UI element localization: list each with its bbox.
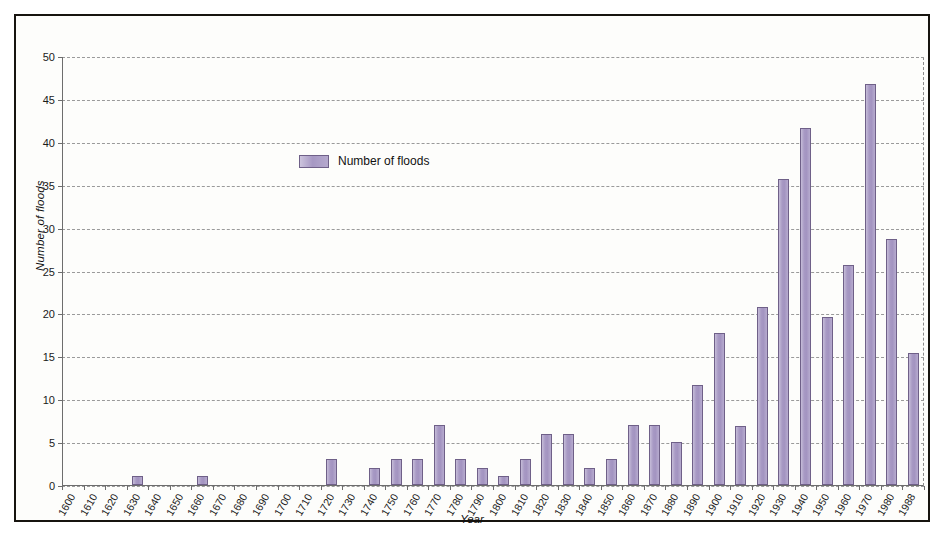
y-tick-mark (58, 143, 63, 144)
bar (649, 425, 660, 485)
x-tick-mark (385, 486, 386, 490)
x-tick-mark (881, 486, 882, 490)
bar (692, 385, 703, 485)
gridline (62, 229, 924, 230)
x-tick-mark (84, 486, 85, 490)
x-tick-mark (924, 486, 925, 490)
x-tick-mark (127, 486, 128, 490)
x-tick-mark (902, 486, 903, 490)
figure-page: Number of floods Year Number of floods 0… (0, 0, 944, 540)
bar (822, 317, 833, 485)
bar (412, 459, 423, 485)
gridline (62, 443, 924, 444)
y-tick-label: 30 (43, 223, 55, 234)
bar (498, 476, 509, 485)
y-tick-label: 5 (49, 438, 55, 449)
bar (434, 425, 445, 485)
y-tick-mark (58, 357, 63, 358)
x-tick-mark (601, 486, 602, 490)
bar (886, 239, 897, 485)
x-tick-mark (838, 486, 839, 490)
bar (541, 434, 552, 485)
gridline (62, 100, 924, 101)
figure-frame: Number of floods Year Number of floods 0… (14, 14, 930, 522)
bar (477, 468, 488, 485)
x-tick-mark (105, 486, 106, 490)
x-tick-mark (170, 486, 171, 490)
y-tick-label: 15 (43, 352, 55, 363)
x-tick-mark (428, 486, 429, 490)
bar (197, 476, 208, 485)
gridline (62, 143, 924, 144)
bar (757, 307, 768, 485)
x-tick-mark (579, 486, 580, 490)
gridline (62, 357, 924, 358)
x-tick-mark (407, 486, 408, 490)
bar (132, 476, 143, 485)
y-tick-mark (58, 443, 63, 444)
x-tick-mark (859, 486, 860, 490)
x-tick-mark (148, 486, 149, 490)
x-tick-mark (471, 486, 472, 490)
bar (520, 459, 531, 485)
y-tick-label: 10 (43, 395, 55, 406)
bar (584, 468, 595, 485)
x-tick-mark (622, 486, 623, 490)
bar (865, 84, 876, 485)
x-tick-mark (536, 486, 537, 490)
bar (800, 128, 811, 485)
x-tick-mark (450, 486, 451, 490)
x-tick-mark (234, 486, 235, 490)
y-tick-mark (58, 100, 63, 101)
bar (606, 459, 617, 485)
bar (908, 353, 919, 485)
gridline (62, 57, 924, 58)
x-tick-mark (256, 486, 257, 490)
gridline (62, 186, 924, 187)
bar (778, 179, 789, 485)
bar (671, 442, 682, 485)
y-tick-mark (58, 272, 63, 273)
x-tick-mark (321, 486, 322, 490)
x-tick-mark (730, 486, 731, 490)
y-tick-label: 0 (49, 481, 55, 492)
x-tick-mark (62, 486, 63, 490)
bar (391, 459, 402, 485)
x-tick-mark (191, 486, 192, 490)
plot-area: 05101520253035404550 1600161016201630164… (62, 57, 924, 486)
x-tick-mark (752, 486, 753, 490)
y-tick-mark (58, 229, 63, 230)
x-tick-mark (515, 486, 516, 490)
x-tick-mark (558, 486, 559, 490)
x-tick-mark (644, 486, 645, 490)
gridline (62, 400, 924, 401)
x-tick-mark (773, 486, 774, 490)
y-tick-label: 50 (43, 52, 55, 63)
x-tick-mark (493, 486, 494, 490)
x-tick-mark (213, 486, 214, 490)
y-tick-mark (58, 57, 63, 58)
bar (563, 434, 574, 485)
y-tick-label: 25 (43, 266, 55, 277)
x-tick-mark (299, 486, 300, 490)
bar (735, 426, 746, 485)
bar (628, 425, 639, 485)
x-tick-mark (364, 486, 365, 490)
x-tick-mark (687, 486, 688, 490)
x-tick-mark (278, 486, 279, 490)
x-tick-mark (795, 486, 796, 490)
y-tick-mark (58, 186, 63, 187)
x-tick-mark (665, 486, 666, 490)
y-tick-label: 40 (43, 137, 55, 148)
bar (455, 459, 466, 485)
y-tick-mark (58, 314, 63, 315)
gridline (62, 314, 924, 315)
y-tick-label: 45 (43, 94, 55, 105)
bar (369, 468, 380, 485)
bar (843, 265, 854, 486)
bar (326, 459, 337, 485)
y-tick-label: 35 (43, 180, 55, 191)
gridline (62, 272, 924, 273)
x-tick-mark (709, 486, 710, 490)
x-tick-mark (342, 486, 343, 490)
